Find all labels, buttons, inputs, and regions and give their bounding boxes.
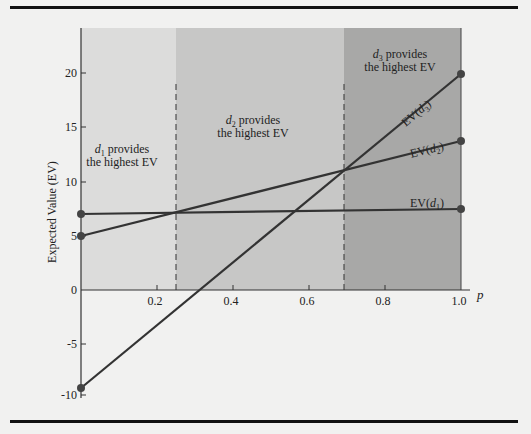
svg-text:the highest EV: the highest EV	[364, 60, 436, 74]
expected-value-chart: 20 15 10 5 0 -5 -10 0.2 0.4 0.6 0.8 1.0 …	[0, 0, 531, 434]
y-tick-15: 15	[65, 120, 77, 134]
y-tick-5: 5	[71, 229, 77, 243]
x-tick-1.0: 1.0	[452, 294, 467, 308]
x-tick-0.2: 0.2	[148, 294, 163, 308]
region-label-d2: d2 provides the highest EV	[217, 113, 289, 140]
y-tick-0: 0	[71, 283, 77, 297]
y-axis-label: Expected Value (EV)	[45, 161, 59, 263]
svg-text:the highest EV: the highest EV	[86, 155, 158, 169]
x-tick-0.4: 0.4	[224, 294, 239, 308]
y-tick-10: 10	[65, 175, 77, 189]
x-axis-label: p	[476, 287, 484, 302]
top-rule	[10, 6, 518, 9]
y-tick-minus5: -5	[67, 337, 77, 351]
y-tick-labels: 20 15 10 5 0 -5 -10	[61, 66, 77, 402]
x-tick-0.8: 0.8	[376, 294, 391, 308]
svg-text:the highest EV: the highest EV	[217, 126, 289, 140]
bottom-rule	[10, 420, 518, 423]
region-label-d3: d3 provides the highest EV	[364, 47, 436, 74]
region-label-d1: d1 provides the highest EV	[86, 142, 158, 169]
x-tick-labels: 0.2 0.4 0.6 0.8 1.0	[148, 294, 467, 308]
y-tick-minus10: -10	[61, 388, 77, 402]
x-tick-0.6: 0.6	[300, 294, 315, 308]
region-d2	[176, 28, 344, 290]
y-tick-20: 20	[65, 66, 77, 80]
